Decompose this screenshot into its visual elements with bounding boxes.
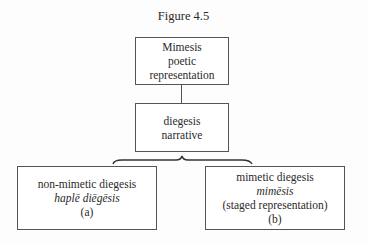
node-non-mimetic-diegesis: non-mimetic diegesis haplē diēgēsis (a) — [17, 166, 157, 230]
node-left-line-3: (a) — [81, 205, 94, 219]
node-right-line-3: (staged representation) — [222, 198, 327, 212]
node-right-line-1: mimetic diegesis — [236, 170, 314, 184]
node-right-line-2: mimēsis — [256, 184, 293, 198]
node-left-line-2: haplē diēgēsis — [54, 191, 119, 205]
node-right-line-4: (b) — [268, 212, 281, 226]
node-mimetic-diegesis: mimetic diegesis mimēsis (staged represe… — [205, 166, 345, 230]
node-left-line-1: non-mimetic diegesis — [38, 177, 137, 191]
